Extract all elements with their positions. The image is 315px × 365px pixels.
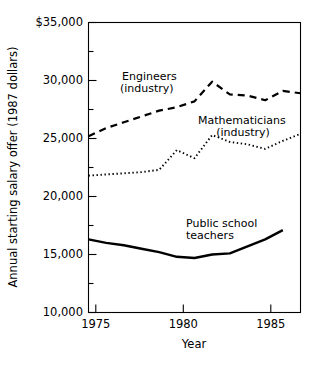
- x-axis-ticks: [96, 305, 271, 313]
- x-tick-label-1985: 1985: [256, 317, 285, 331]
- y-tick-label-15000: 15,000: [43, 247, 83, 261]
- y-tick-label-30000: 30,000: [43, 73, 83, 87]
- y-tick-label-25000: 25,000: [43, 131, 83, 145]
- y-axis-ticks: [89, 23, 97, 313]
- x-axis-title: Year: [181, 337, 207, 351]
- x-tick-label-1980: 1980: [169, 317, 198, 331]
- y-axis-title: Annual starting salary offer (1987 dolla…: [6, 46, 20, 287]
- plot-frame: [89, 23, 301, 313]
- series-label-teachers: Public school teachers: [186, 217, 257, 242]
- salary-line-chart: $35,000 30,000 25,000 20,000 15,000 10,0…: [0, 0, 315, 365]
- series-label-mathematicians-line2: (industry): [216, 126, 270, 139]
- chart-figure: $35,000 30,000 25,000 20,000 15,000 10,0…: [0, 0, 315, 365]
- series-label-teachers-line2: teachers: [186, 229, 234, 242]
- y-tick-label-10000: 10,000: [43, 305, 83, 319]
- series-label-engineers-line2: (industry): [120, 82, 174, 95]
- x-tick-label-1975: 1975: [81, 317, 110, 331]
- y-tick-label-35000: $35,000: [35, 15, 83, 29]
- y-tick-label-20000: 20,000: [43, 189, 83, 203]
- series-line-mathematicians: [89, 134, 301, 176]
- series-label-engineers: Engineers (industry): [120, 70, 177, 95]
